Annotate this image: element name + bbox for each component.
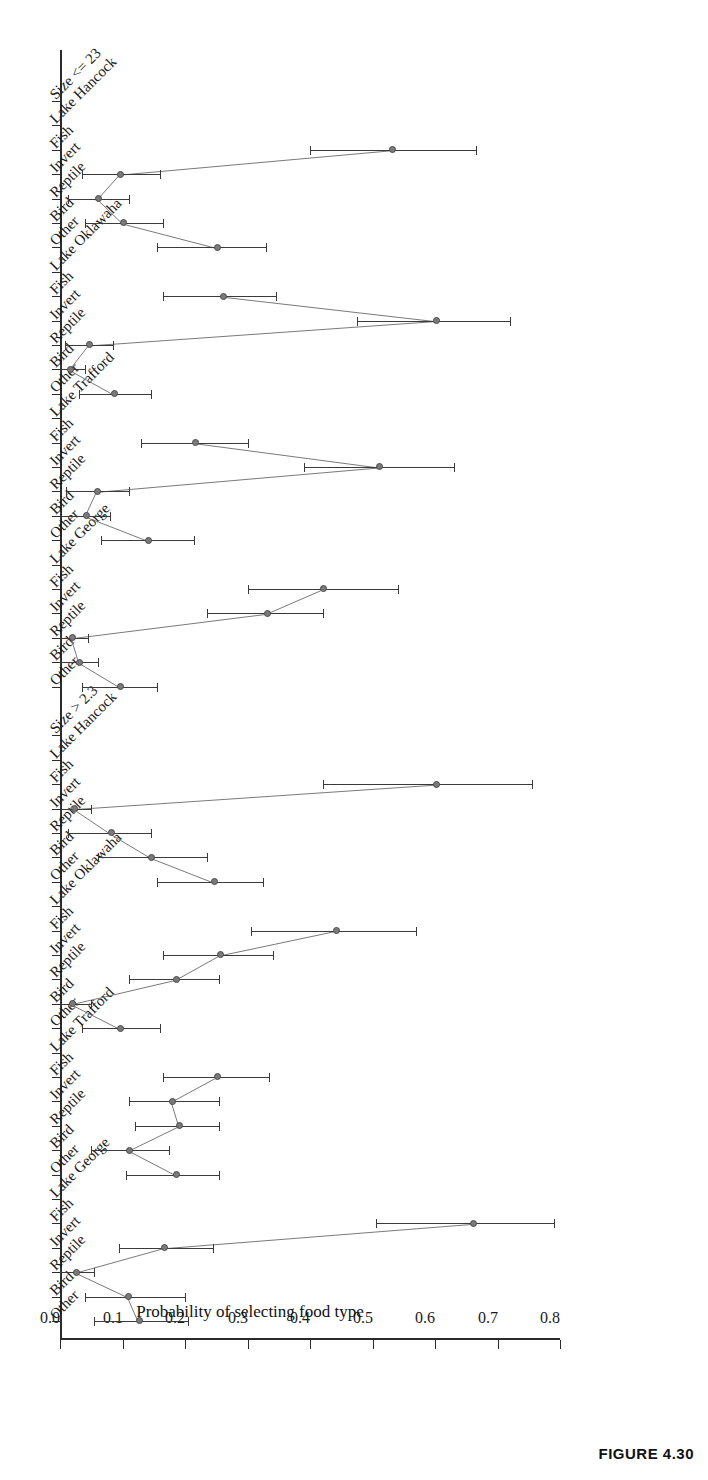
error-bar-cap xyxy=(85,365,86,374)
data-point xyxy=(220,293,227,300)
data-point xyxy=(111,390,118,397)
error-bar-cap xyxy=(82,1024,83,1033)
error-bar-cap xyxy=(141,439,142,448)
error-bar-cap xyxy=(110,512,111,521)
error-bar xyxy=(376,1223,554,1224)
series-polyline-layer xyxy=(60,50,560,1340)
error-bar-cap xyxy=(185,1293,186,1302)
data-point xyxy=(169,1098,176,1105)
error-bar xyxy=(323,784,532,785)
error-bar xyxy=(85,1297,185,1298)
error-bar-cap xyxy=(66,487,67,496)
error-bar-cap xyxy=(276,292,277,301)
error-bar xyxy=(157,247,266,248)
data-point xyxy=(192,439,199,446)
error-bar-cap xyxy=(91,805,92,814)
error-bar-cap xyxy=(60,658,61,667)
error-bar-cap xyxy=(119,1244,120,1253)
error-bar-cap xyxy=(129,487,130,496)
error-bar-cap xyxy=(476,146,477,155)
error-bar-cap xyxy=(310,146,311,155)
figure-caption: FIGURE 4.30 xyxy=(598,1445,694,1462)
error-bar-cap xyxy=(416,927,417,936)
error-bar-cap xyxy=(248,439,249,448)
error-bar-cap xyxy=(60,365,61,374)
error-bar-cap xyxy=(304,463,305,472)
data-point xyxy=(161,1244,168,1251)
error-bar-cap xyxy=(532,780,533,789)
error-bar-cap xyxy=(65,341,66,350)
error-bar-cap xyxy=(60,634,61,643)
data-point xyxy=(126,1147,133,1154)
data-point xyxy=(67,366,74,373)
error-bar-cap xyxy=(60,1000,61,1009)
error-bar-cap xyxy=(68,829,69,838)
error-bar-cap xyxy=(88,634,89,643)
error-bar-cap xyxy=(82,683,83,692)
plot-area: OtherBirdReptileInvertFishOtherBirdRepti… xyxy=(60,50,560,1340)
data-point xyxy=(94,488,101,495)
probability-tick xyxy=(560,1340,561,1349)
error-bar-cap xyxy=(273,951,274,960)
probability-tick xyxy=(248,1340,249,1349)
group-trend-line xyxy=(69,297,435,395)
probability-tick xyxy=(310,1340,311,1349)
error-bar-cap xyxy=(157,243,158,252)
error-bar-cap xyxy=(219,975,220,984)
error-bar-cap xyxy=(98,853,99,862)
data-point xyxy=(173,976,180,983)
data-point xyxy=(117,683,124,690)
error-bar-cap xyxy=(207,853,208,862)
data-point xyxy=(214,244,221,251)
data-point xyxy=(83,512,90,519)
error-bar-cap xyxy=(194,536,195,545)
error-bar-cap xyxy=(101,536,102,545)
error-bar-cap xyxy=(126,1171,127,1180)
error-bar-cap xyxy=(68,195,69,204)
probability-tick xyxy=(60,1340,61,1349)
data-point xyxy=(433,317,440,324)
error-bar-cap xyxy=(263,878,264,887)
error-bar-cap xyxy=(323,780,324,789)
error-bar-cap xyxy=(91,1000,92,1009)
error-bar-cap xyxy=(376,1219,377,1228)
error-bar-cap xyxy=(94,1268,95,1277)
group-trend-line xyxy=(71,590,322,688)
error-bar-cap xyxy=(160,170,161,179)
data-point xyxy=(433,781,440,788)
error-bar-cap xyxy=(269,1073,270,1082)
data-point xyxy=(117,171,124,178)
error-bar-cap xyxy=(398,585,399,594)
data-point xyxy=(264,610,271,617)
probability-tick xyxy=(185,1340,186,1349)
error-bar-cap xyxy=(163,1073,164,1082)
error-bar-cap xyxy=(129,1097,130,1106)
error-bar-cap xyxy=(135,1122,136,1131)
error-bar-cap xyxy=(554,1219,555,1228)
error-bar-cap xyxy=(163,219,164,228)
error-bar-cap xyxy=(266,243,267,252)
data-point xyxy=(211,878,218,885)
probability-tick-label: 0.0 xyxy=(20,1309,60,1327)
error-bar-cap xyxy=(160,1024,161,1033)
error-bar-cap xyxy=(157,683,158,692)
data-point xyxy=(117,1025,124,1032)
error-bar-cap xyxy=(151,829,152,838)
error-bar-cap xyxy=(248,585,249,594)
error-bar-cap xyxy=(157,878,158,887)
error-bar-cap xyxy=(85,219,86,228)
probability-tick xyxy=(498,1340,499,1349)
error-bar-cap xyxy=(94,1317,95,1326)
error-bar-cap xyxy=(169,1146,170,1155)
data-point xyxy=(470,1220,477,1227)
error-bar-cap xyxy=(357,317,358,326)
error-bar-cap xyxy=(219,1122,220,1131)
y-axis-label: Probability of selecting food type xyxy=(136,1302,364,1322)
error-bar-cap xyxy=(113,341,114,350)
probability-tick xyxy=(373,1340,374,1349)
data-point xyxy=(73,1269,80,1276)
error-bar-cap xyxy=(213,1244,214,1253)
data-point xyxy=(148,854,155,861)
error-bar-cap xyxy=(163,292,164,301)
group-trend-line xyxy=(74,785,435,883)
